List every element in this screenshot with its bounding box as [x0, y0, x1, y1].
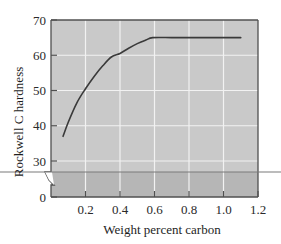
y-tick-label: 30 [33, 154, 46, 169]
x-axis-label: Weight percent carbon [103, 222, 221, 237]
y-tick-label: 70 [33, 13, 46, 28]
y-tick-label: 60 [33, 48, 46, 63]
x-tick-label: 1.2 [250, 202, 266, 217]
y-tick-label: 0 [40, 190, 47, 205]
hardness-chart: 030405060700.20.40.60.81.01.2 Weight per… [0, 0, 281, 244]
x-tick-label: 1.0 [215, 202, 231, 217]
y-axis-label: Rockwell C hardness [11, 67, 26, 177]
y-tick-label: 50 [33, 83, 46, 98]
x-tick-label: 0.4 [112, 202, 129, 217]
x-tick-label: 0.2 [77, 202, 93, 217]
y-tick-label: 40 [33, 118, 46, 133]
x-tick-label: 0.6 [146, 202, 163, 217]
x-tick-label: 0.8 [181, 202, 197, 217]
